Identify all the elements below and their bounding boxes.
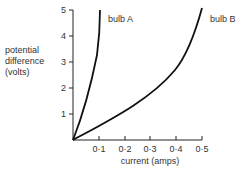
y-tick-label: 5 (61, 5, 66, 15)
x-tick-label: 0·2 (118, 144, 131, 154)
bulb-a-curve (73, 10, 100, 140)
x-tick-label: 0·4 (169, 144, 182, 154)
y-ticks: 1 2 3 4 5 (61, 5, 73, 119)
y-tick-label: 4 (61, 31, 66, 41)
y-axis-label-line-1: potential (5, 45, 39, 55)
bulb-a-label: bulb A (108, 14, 133, 24)
x-tick-label: 0·5 (195, 144, 208, 154)
x-tick-label: 0·3 (143, 144, 156, 154)
y-axis-label-line-3: (volts) (5, 67, 30, 77)
y-tick-label: 1 (61, 109, 66, 119)
x-axis-label: current (amps) (121, 156, 180, 166)
y-axis-label-line-2: difference (5, 56, 44, 66)
y-tick-label: 2 (61, 83, 66, 93)
bulb-b-label: bulb B (210, 14, 236, 24)
chart: 1 2 3 4 5 0·1 0·2 0·3 0·4 0·5 current (a… (0, 0, 242, 171)
y-tick-label: 3 (61, 57, 66, 67)
x-tick-label: 0·1 (92, 144, 105, 154)
x-ticks: 0·1 0·2 0·3 0·4 0·5 (92, 136, 208, 154)
